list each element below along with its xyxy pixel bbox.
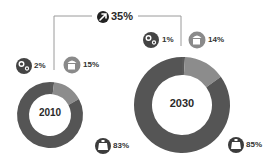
- year-label-2010: 2010: [30, 107, 70, 118]
- segment-label-2030-jar: 85%: [246, 140, 262, 150]
- jar-icon: [0, 0, 280, 164]
- year-label-2030: 2030: [157, 97, 207, 109]
